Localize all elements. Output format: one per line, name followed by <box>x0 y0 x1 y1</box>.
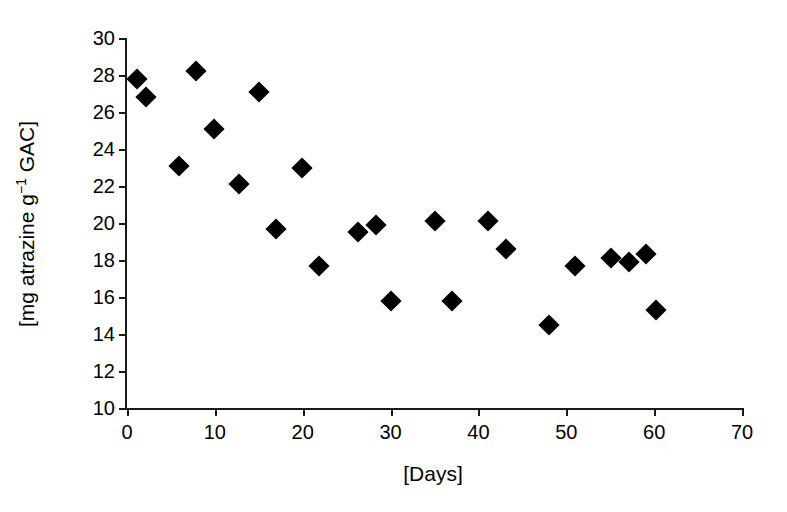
x-axis-tick <box>215 408 217 416</box>
x-axis-tick <box>742 408 744 416</box>
y-axis-tick <box>119 38 127 40</box>
x-axis-tick-label: 70 <box>731 422 753 442</box>
x-axis-tick-label: 30 <box>379 422 401 442</box>
data-point <box>136 87 157 108</box>
data-point <box>600 248 621 269</box>
y-axis-tick-label: 24 <box>81 139 115 159</box>
data-point <box>266 218 287 239</box>
y-axis-label-superscript: −1 <box>13 178 29 194</box>
x-axis-tick-label: 60 <box>643 422 665 442</box>
scatter-chart: [mg atrazine g−1 GAC] 101214161820222426… <box>0 0 787 512</box>
x-axis-label: [Days] <box>403 462 463 486</box>
y-axis-tick-label: 18 <box>81 250 115 270</box>
data-point <box>186 61 207 82</box>
y-axis-tick-label: 16 <box>81 287 115 307</box>
y-axis-tick <box>119 334 127 336</box>
data-point <box>441 290 462 311</box>
y-axis-tick <box>119 75 127 77</box>
y-axis-tick-label: 10 <box>81 398 115 418</box>
x-axis-tick <box>478 408 480 416</box>
y-axis-tick-label: 12 <box>81 361 115 381</box>
data-point <box>309 255 330 276</box>
x-axis-tick-label: 0 <box>121 422 132 442</box>
y-axis-label-suffix: GAC] <box>15 121 38 178</box>
plot-inner: 1012141618202224262830010203040506070 <box>127 38 742 408</box>
data-point <box>248 81 269 102</box>
x-axis-tick <box>391 408 393 416</box>
y-axis-tick <box>119 149 127 151</box>
plot-area: 1012141618202224262830010203040506070 <box>125 38 742 410</box>
y-axis-tick <box>119 371 127 373</box>
data-point <box>381 290 402 311</box>
y-axis-tick <box>119 408 127 410</box>
x-axis-tick-label: 50 <box>555 422 577 442</box>
data-point <box>203 118 224 139</box>
y-axis-tick-label: 28 <box>81 65 115 85</box>
y-axis-tick <box>119 223 127 225</box>
x-axis-tick <box>654 408 656 416</box>
data-point <box>495 238 516 259</box>
data-point <box>538 314 559 335</box>
y-axis-tick-label: 22 <box>81 176 115 196</box>
data-point <box>645 299 666 320</box>
y-axis-tick-label: 30 <box>81 28 115 48</box>
y-axis-label: [mg atrazine g−1 GAC] <box>13 121 39 327</box>
y-axis-tick-label: 20 <box>81 213 115 233</box>
x-axis-tick <box>566 408 568 416</box>
x-axis-tick-label: 20 <box>292 422 314 442</box>
y-axis-label-prefix: [mg atrazine g <box>15 194 38 327</box>
data-point <box>126 68 147 89</box>
data-point <box>168 155 189 176</box>
y-axis-tick <box>119 186 127 188</box>
y-axis-tick-label: 14 <box>81 324 115 344</box>
y-axis-tick <box>119 260 127 262</box>
y-axis-tick <box>119 297 127 299</box>
x-axis-tick-label: 10 <box>204 422 226 442</box>
x-axis-tick <box>127 408 129 416</box>
data-point <box>564 255 585 276</box>
data-point <box>229 174 250 195</box>
y-axis-tick <box>119 112 127 114</box>
data-point <box>425 211 446 232</box>
data-point <box>477 211 498 232</box>
x-axis-tick <box>303 408 305 416</box>
y-axis-tick-label: 26 <box>81 102 115 122</box>
x-axis-tick-label: 40 <box>467 422 489 442</box>
data-point <box>291 157 312 178</box>
